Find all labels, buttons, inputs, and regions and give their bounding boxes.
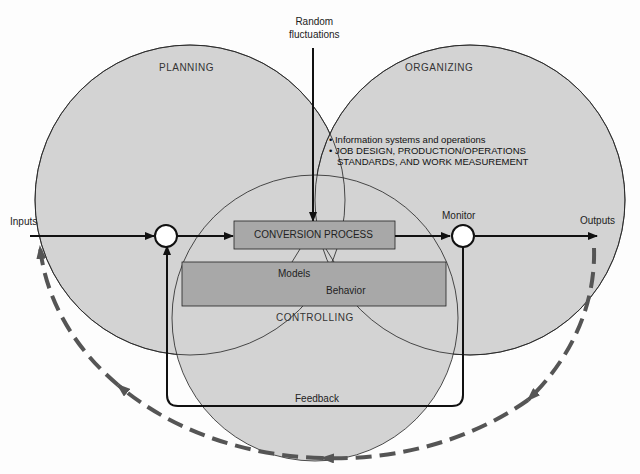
organizing-bullet-list: • Information systems and operations • J… — [329, 134, 528, 167]
controlling-label: CONTROLLING — [276, 312, 354, 323]
planning-label: PLANNING — [159, 62, 214, 73]
behavior-label: Behavior — [326, 285, 365, 296]
monitor-label: Monitor — [442, 210, 475, 221]
monitor-junction — [452, 225, 474, 247]
inputs-label: Inputs — [10, 216, 37, 227]
random-fluctuations-label: Random fluctuations — [289, 15, 340, 41]
bullet-item: • JOB DESIGN, PRODUCTION/OPERATIONS — [329, 145, 528, 156]
organizing-label: ORGANIZING — [405, 62, 473, 73]
models-label: Models — [278, 268, 310, 279]
bullet-item: STANDARDS, AND WORK MEASUREMENT — [329, 156, 528, 167]
operations-management-diagram: Random fluctuations PLANNING ORGANIZING … — [0, 0, 640, 474]
bullet-item: • Information systems and operations — [329, 134, 528, 145]
models-behavior-box — [182, 262, 446, 306]
feedback-label: Feedback — [295, 393, 339, 404]
outputs-label: Outputs — [580, 215, 615, 226]
input-junction — [155, 225, 177, 247]
conversion-process-label: CONVERSION PROCESS — [254, 229, 373, 240]
